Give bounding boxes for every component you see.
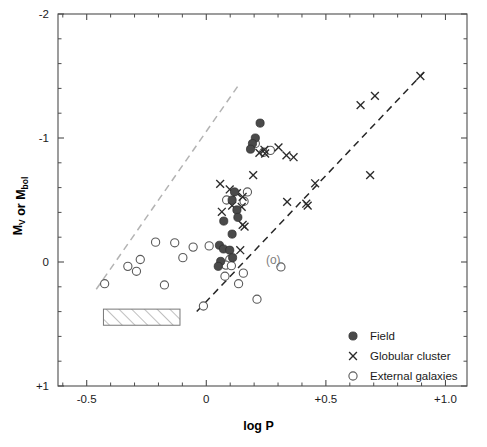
- y-tick-label: 0: [43, 256, 49, 268]
- data-point: [357, 101, 365, 109]
- period-luminosity-scatter-plot: -0.50+0.5+1.0-2-10+1 (o) FieldGlobular c…: [0, 0, 487, 447]
- data-point: [221, 272, 229, 280]
- data-point: [214, 262, 222, 270]
- data-point: [239, 269, 247, 277]
- data-point: [124, 262, 132, 270]
- data-point: [228, 230, 236, 238]
- legend-marker-cross: [349, 352, 357, 360]
- data-point: [229, 254, 237, 262]
- series-external-galaxies: [101, 139, 285, 310]
- plot-border: [58, 14, 467, 386]
- hatched-region: [103, 309, 180, 325]
- data-point: [366, 171, 374, 179]
- data-point: [256, 119, 264, 127]
- series-globular-cluster: [216, 72, 424, 254]
- data-point: [199, 302, 207, 310]
- y-axis-title: MV or Mbol: [11, 177, 30, 236]
- legend-marker-filled-circle: [349, 332, 357, 340]
- data-point: [220, 217, 228, 225]
- data-point: [371, 92, 379, 100]
- data-point: [189, 243, 197, 251]
- y-tick-label: -2: [39, 8, 49, 20]
- data-point: [233, 206, 241, 214]
- legend-label: Globular cluster: [370, 350, 451, 362]
- data-point: [179, 254, 187, 262]
- data-point: [241, 223, 249, 231]
- svg-text:MV or Mbol: MV or Mbol: [11, 177, 30, 236]
- y-tick-label: +1: [36, 380, 49, 392]
- data-point: [218, 208, 226, 216]
- x-tick-label: 0: [203, 393, 209, 405]
- data-points: [101, 72, 425, 310]
- x-tick-label: +0.5: [315, 393, 338, 405]
- hatched-region-box: [103, 309, 180, 325]
- data-point: [226, 246, 234, 254]
- data-point: [227, 262, 235, 270]
- figure-root: -0.50+0.5+1.0-2-10+1 (o) FieldGlobular c…: [0, 0, 487, 447]
- data-point: [283, 151, 291, 159]
- fit-lines: [96, 72, 424, 311]
- legend-label: External galaxies: [370, 370, 458, 382]
- legend: FieldGlobular clusterExternal galaxies: [349, 330, 458, 382]
- y-tick-label: -1: [39, 132, 49, 144]
- x-tick-label: +1.0: [434, 393, 457, 405]
- x-tick-label: -0.5: [77, 393, 97, 405]
- data-point: [283, 198, 291, 206]
- data-point: [230, 188, 238, 196]
- axis-tick-labels: -0.50+0.5+1.0-2-10+1: [36, 8, 457, 405]
- data-point: [160, 281, 168, 289]
- axis-ticks: [58, 14, 467, 386]
- plot-frame: [58, 14, 467, 386]
- data-point: [101, 280, 109, 288]
- data-point: [216, 180, 224, 188]
- data-point: [234, 280, 242, 288]
- data-point: [205, 242, 213, 250]
- legend-label: Field: [370, 330, 395, 342]
- data-point: [246, 145, 254, 153]
- data-point: [136, 255, 144, 263]
- legend-marker-open-circle: [349, 372, 357, 380]
- data-point: [253, 295, 261, 303]
- data-point: [132, 267, 140, 275]
- data-point: [236, 246, 244, 254]
- data-point: [275, 143, 283, 151]
- annotations: (o): [266, 253, 281, 267]
- x-axis-title: log P: [243, 419, 274, 433]
- data-point: [249, 171, 257, 179]
- data-point: [171, 239, 179, 247]
- data-point: [416, 72, 424, 80]
- data-point: [234, 213, 242, 221]
- annotation-paren-point: (o): [266, 253, 281, 267]
- data-point: [290, 153, 298, 161]
- data-point: [151, 238, 159, 246]
- data-point: [228, 196, 236, 204]
